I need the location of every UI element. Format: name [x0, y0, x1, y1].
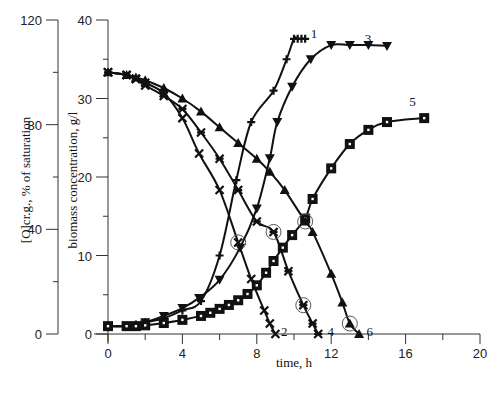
x-axis-title: time, h: [276, 355, 313, 370]
x-tick-label: 12: [324, 346, 338, 361]
star-marker-icon: [197, 129, 205, 137]
square-marker-dot: [423, 117, 425, 119]
square-marker-dot: [272, 260, 274, 262]
star-marker-icon: [178, 105, 186, 113]
curves: 123456: [103, 26, 429, 339]
square-marker-dot: [144, 324, 146, 326]
square-marker-dot: [311, 198, 313, 200]
square-marker-dot: [256, 284, 258, 286]
plus-marker-icon: [283, 55, 291, 63]
triangle-up-marker-icon: [326, 269, 336, 278]
series-line: [108, 72, 318, 334]
triangle-up-marker-icon: [337, 298, 347, 307]
triangle-down-marker-icon: [265, 154, 275, 163]
triangle-up-marker-icon: [159, 83, 169, 92]
x-marker-icon: [260, 306, 268, 314]
square-marker-dot: [282, 246, 284, 248]
square-marker-dot: [291, 234, 293, 236]
x-tick-label: 20: [473, 346, 487, 361]
square-marker-dot: [163, 322, 165, 324]
square-marker-dot: [237, 299, 239, 301]
x-marker-icon: [266, 320, 274, 328]
star-marker-icon: [314, 330, 322, 338]
square-marker-dot: [349, 143, 351, 145]
triangle-down-marker-icon: [287, 83, 297, 92]
chart: 04080120010203040048121620 123456 time, …: [0, 0, 497, 395]
square-marker-dot: [218, 308, 220, 310]
curve-label-5: 5: [409, 94, 416, 109]
square-marker-dot: [181, 319, 183, 321]
triangle-up-marker-icon: [345, 319, 355, 328]
star-marker-icon: [309, 320, 317, 328]
left-y-axis-title: [O]cr.g., % of saturation: [18, 116, 33, 243]
left-y-tick-label: 120: [20, 13, 42, 28]
x-marker-icon: [178, 114, 186, 122]
square-marker-dot: [246, 293, 248, 295]
curve-label-4: 4: [327, 324, 334, 339]
x-marker-icon: [195, 149, 203, 157]
x-tick-label: 16: [398, 346, 412, 361]
x-marker-icon: [216, 186, 224, 194]
square-marker-dot: [367, 129, 369, 131]
square-marker-dot: [386, 121, 388, 123]
star-marker-icon: [299, 301, 307, 309]
curve-label-3: 3: [365, 31, 372, 46]
plus-marker-icon: [216, 252, 224, 260]
series-4: 4: [104, 68, 334, 339]
right-y-tick-label: 0: [85, 327, 92, 342]
curve-label-1: 1: [311, 26, 318, 41]
triangle-up-marker-icon: [177, 94, 187, 103]
axes: 04080120010203040048121620: [20, 13, 487, 361]
series-3: 3: [103, 31, 392, 331]
triangle-down-marker-icon: [272, 118, 282, 127]
left-y-tick-label: 0: [35, 327, 42, 342]
star-marker-icon: [270, 228, 278, 236]
triangle-down-marker-icon: [252, 204, 262, 213]
series-line: [108, 72, 359, 334]
square-marker-dot: [200, 315, 202, 317]
square-marker-dot: [209, 312, 211, 314]
series-line: [108, 118, 424, 326]
square-marker-dot: [125, 325, 127, 327]
series-line: [108, 44, 387, 326]
right-y-tick-label: 40: [78, 13, 92, 28]
star-marker-icon: [284, 267, 292, 275]
star-marker-icon: [253, 217, 261, 225]
right-y-tick-label: 30: [78, 92, 92, 107]
series-5: 5: [103, 94, 429, 331]
right-y-tick-label: 10: [78, 249, 92, 264]
square-marker-dot: [330, 167, 332, 169]
square-marker-dot: [107, 325, 109, 327]
curve-label-2: 2: [281, 324, 288, 339]
x-tick-label: 0: [104, 346, 111, 361]
star-marker-icon: [234, 186, 242, 194]
curve-label-6: 6: [367, 324, 374, 339]
x-tick-label: 8: [253, 346, 260, 361]
square-marker-dot: [228, 304, 230, 306]
plus-marker-icon: [247, 118, 255, 126]
square-marker-dot: [135, 325, 137, 327]
series-1: 1: [104, 26, 317, 330]
star-marker-icon: [216, 155, 224, 163]
x-tick-label: 4: [179, 346, 186, 361]
square-marker-dot: [265, 272, 267, 274]
right-y-axis-title: biomass concentration, g/l: [65, 111, 80, 248]
